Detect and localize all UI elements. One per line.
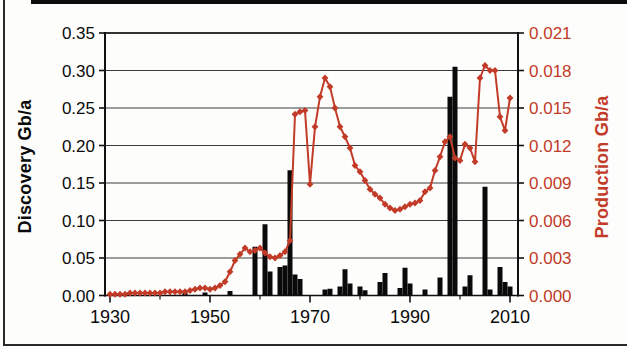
x-tick-label: 2010 <box>490 307 530 327</box>
left-tick-label: 0.05 <box>62 249 95 268</box>
right-tick-label: 0.006 <box>529 212 572 231</box>
production-marker <box>332 105 339 112</box>
left-tick-label: 0.30 <box>62 62 95 81</box>
discovery-bar <box>398 288 403 296</box>
discovery-bar <box>363 290 368 295</box>
right-tick-label: 0.012 <box>529 137 572 156</box>
figure-container: 0.000.050.100.150.200.250.300.350.0000.0… <box>0 0 627 350</box>
production-marker <box>307 181 314 188</box>
production-marker <box>507 95 514 102</box>
x-tick-label: 1990 <box>390 307 430 327</box>
production-marker <box>497 113 504 120</box>
discovery-bar <box>378 282 383 296</box>
discovery-bar <box>448 97 453 296</box>
right-tick-label: 0.000 <box>529 287 572 306</box>
discovery-bar <box>423 290 428 296</box>
left-tick-label: 0.25 <box>62 99 95 118</box>
discovery-bar <box>453 67 458 296</box>
discovery-bar <box>263 224 268 295</box>
production-marker <box>312 123 319 130</box>
discovery-bar <box>383 273 388 296</box>
production-marker <box>227 268 234 275</box>
left-tick-label: 0.10 <box>62 212 95 231</box>
x-tick-label: 1950 <box>190 307 230 327</box>
chart-plot-area: 0.000.050.100.150.200.250.300.350.0000.0… <box>0 0 627 350</box>
production-marker <box>207 286 214 293</box>
left-tick-label: 0.35 <box>62 24 95 43</box>
right-tick-label: 0.018 <box>529 62 572 81</box>
production-marker <box>342 133 349 140</box>
discovery-bar <box>488 290 493 296</box>
production-marker <box>192 286 199 293</box>
discovery-bar <box>483 187 488 296</box>
discovery-bar <box>403 268 408 296</box>
left-tick-label: 0.20 <box>62 137 95 156</box>
discovery-bar <box>508 287 513 296</box>
x-tick-label: 1970 <box>290 307 330 327</box>
production-marker <box>437 153 444 160</box>
discovery-bar <box>468 275 473 295</box>
production-marker <box>432 167 439 174</box>
production-marker <box>317 93 324 100</box>
left-tick-label: 0.00 <box>62 287 95 306</box>
discovery-bar <box>348 284 353 296</box>
x-tick-label: 1930 <box>90 307 130 327</box>
left-tick-label: 0.15 <box>62 174 95 193</box>
right-tick-label: 0.009 <box>529 174 572 193</box>
discovery-bar <box>268 272 273 296</box>
left-axis-title: Discovery Gb/a <box>15 104 36 234</box>
right-tick-label: 0.003 <box>529 249 572 268</box>
production-marker <box>202 285 209 292</box>
discovery-bar <box>498 267 503 296</box>
discovery-bar <box>228 291 233 296</box>
production-marker <box>492 67 499 74</box>
right-axis-title: Production Gb/a <box>592 99 613 239</box>
discovery-bar <box>328 289 333 296</box>
discovery-bar <box>293 275 298 296</box>
production-marker <box>187 287 194 294</box>
discovery-bar <box>203 293 208 296</box>
right-tick-label: 0.015 <box>529 99 572 118</box>
production-marker <box>477 75 484 82</box>
discovery-bar <box>298 279 303 296</box>
discovery-bar <box>278 267 283 296</box>
discovery-bar <box>338 287 343 296</box>
discovery-bar <box>503 282 508 296</box>
discovery-bar <box>343 269 348 295</box>
discovery-bar <box>253 247 258 296</box>
discovery-bar <box>283 266 288 296</box>
discovery-bar <box>323 290 328 296</box>
production-marker <box>337 123 344 130</box>
production-marker <box>122 291 129 298</box>
production-marker <box>472 158 479 165</box>
discovery-bar <box>438 278 443 296</box>
right-tick-label: 0.021 <box>529 24 572 43</box>
discovery-bar <box>408 284 413 296</box>
production-marker <box>502 127 509 134</box>
discovery-bar <box>358 287 363 296</box>
discovery-bar <box>463 287 468 296</box>
